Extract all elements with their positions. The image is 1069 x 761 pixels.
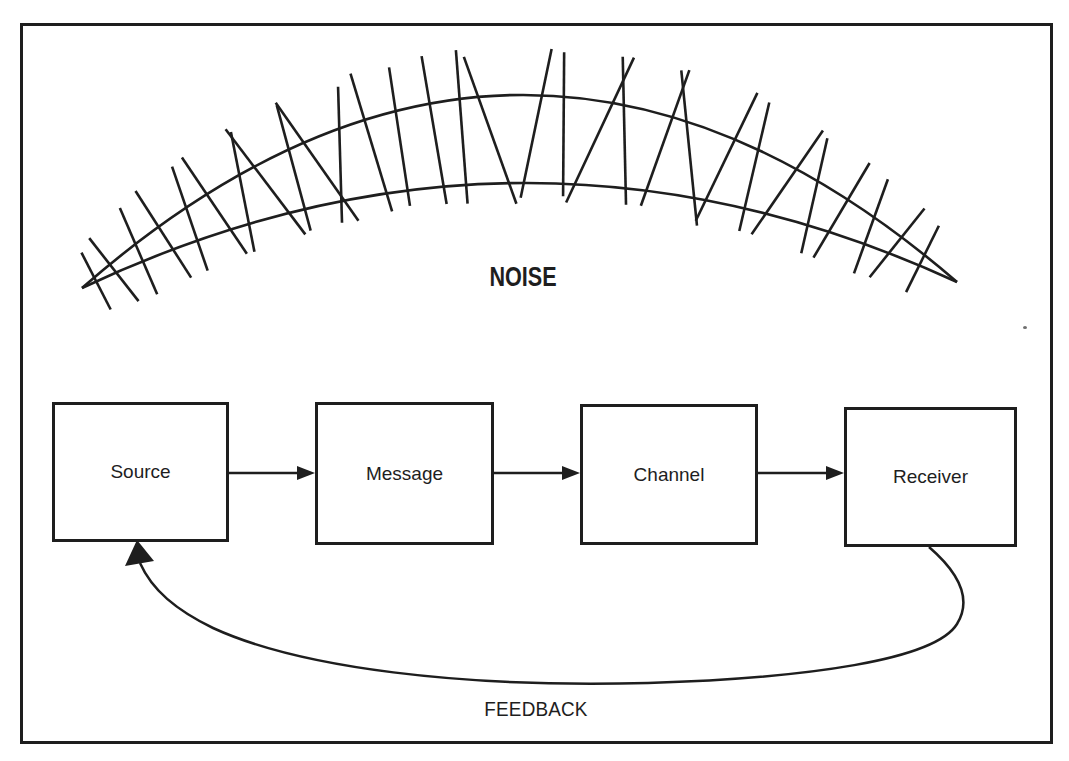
noise-hatch-line <box>389 67 410 205</box>
arrow-source-to-message-head <box>297 466 315 480</box>
feedback-curve <box>140 547 964 684</box>
noise-label: NOISE <box>459 262 587 293</box>
box-channel-label: Channel <box>634 464 705 486</box>
box-message: Message <box>315 402 494 545</box>
noise-hatch-line <box>696 93 758 221</box>
arrow-message-to-channel-head <box>562 466 580 480</box>
noise-hatch-line <box>422 56 447 204</box>
noise-hatch-line <box>182 158 247 254</box>
box-source-label: Source <box>110 461 170 483</box>
noise-hatch-line <box>351 74 393 212</box>
noise-hatch-line <box>521 49 552 198</box>
arrow-channel-to-receiver-head <box>826 466 844 480</box>
box-receiver-label: Receiver <box>893 466 968 488</box>
noise-hatch-line <box>464 57 517 204</box>
feedback-arrowhead <box>125 540 154 566</box>
noise-hatch-line <box>456 50 468 204</box>
noise-hatch-line <box>681 70 697 225</box>
diagram-artwork <box>0 0 1069 761</box>
box-receiver: Receiver <box>844 407 1017 547</box>
noise-hatch-line <box>623 57 626 205</box>
noise-arc-upper <box>82 95 957 288</box>
box-message-label: Message <box>366 463 443 485</box>
noise-hatch-line <box>276 103 359 221</box>
communication-model-figure: NOISE FEEDBACK Source Message Channel Re… <box>0 0 1069 761</box>
scan-speck <box>1023 326 1027 329</box>
box-source: Source <box>52 402 229 542</box>
noise-hatch-line <box>563 52 564 196</box>
box-channel: Channel <box>580 404 758 545</box>
noise-hatch-line <box>906 226 939 292</box>
feedback-label: FEEDBACK <box>464 697 608 721</box>
